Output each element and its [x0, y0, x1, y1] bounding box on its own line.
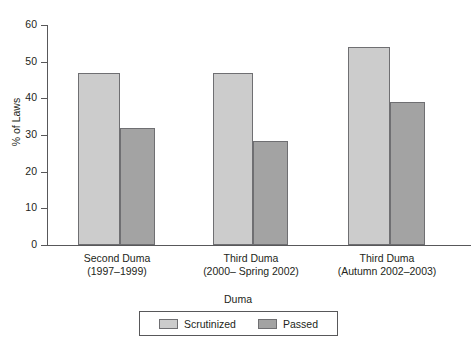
y-tick-label: 10 [0, 202, 37, 213]
y-tick-label: 50 [0, 56, 37, 67]
x-category-label-line1: Second Duma [84, 252, 151, 264]
bar-passed-0 [120, 128, 155, 245]
bar-passed-2 [390, 102, 425, 245]
x-axis-line [47, 245, 471, 246]
bar-chart-figure: % of Laws 0102030405060 Second Duma(1997… [0, 0, 476, 352]
legend-label: Passed [283, 318, 318, 330]
legend-item-scrutinized[interactable]: Scrutinized [159, 318, 236, 330]
chart-legend: ScrutinizedPassed [139, 311, 338, 336]
x-category-label-line1: Third Duma [360, 252, 415, 264]
plot-area [47, 25, 471, 245]
bar-passed-1 [253, 141, 288, 246]
y-tick-label: 0 [0, 239, 37, 250]
light-gray-swatch [159, 319, 178, 329]
x-category-label-2: Third Duma(Autumn 2002–2003) [297, 252, 476, 278]
x-category-label-line2: (Autumn 2002–2003) [297, 265, 476, 278]
y-tick-label: 30 [0, 129, 37, 140]
bar-scrutinized-2 [348, 47, 390, 245]
y-tick-label: 40 [0, 92, 37, 103]
y-tick-label: 60 [0, 19, 37, 30]
legend-label: Scrutinized [184, 318, 236, 330]
x-category-label-line1: Third Duma [224, 252, 279, 264]
dark-gray-swatch [258, 319, 277, 329]
bar-scrutinized-0 [78, 73, 120, 245]
y-tick-label: 20 [0, 166, 37, 177]
legend-item-passed[interactable]: Passed [258, 318, 318, 330]
bar-scrutinized-1 [213, 73, 253, 245]
x-axis-title: Duma [0, 293, 476, 305]
